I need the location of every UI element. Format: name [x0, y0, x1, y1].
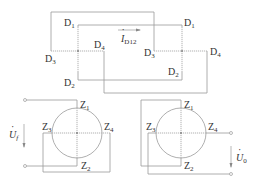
node-dot	[77, 50, 79, 52]
phasor-dot: ·	[122, 24, 125, 35]
voltage-arrow-input	[23, 124, 26, 148]
output-terminal-bottom	[230, 173, 233, 176]
wire-d1-d1	[78, 25, 182, 27]
bottom-left-element	[24, 99, 111, 173]
input-terminal-bottom	[24, 165, 27, 168]
wire-input-bottom	[26, 158, 77, 166]
label-z4-left: Z4	[104, 121, 114, 134]
label-d2-left: D2	[64, 77, 75, 90]
label-z3-left: Z3	[42, 121, 52, 134]
label-d1-right: D1	[184, 17, 195, 30]
label-d4-left: D4	[94, 39, 105, 52]
output-terminal-top	[230, 132, 233, 135]
label-z4-right: Z4	[208, 121, 218, 134]
label-z2-left: Z2	[81, 160, 91, 173]
label-d2-right: D2	[168, 66, 179, 79]
wire-input-top	[26, 100, 77, 108]
label-z3-right: Z3	[146, 121, 156, 134]
arrow-down-icon	[23, 143, 26, 148]
wire-d4-d4	[104, 51, 207, 93]
phasor-dot: ·	[238, 144, 241, 155]
label-z1-right: Z1	[184, 99, 194, 112]
label-d4-right: D4	[210, 46, 221, 59]
node-dot	[76, 132, 78, 134]
label-d3-left: D3	[45, 53, 56, 66]
node-dot	[180, 132, 182, 134]
arrow-down-icon	[230, 163, 233, 168]
top-right-node	[154, 27, 207, 72]
label-d3-right: D3	[144, 47, 155, 60]
wire-d2-d2	[78, 72, 182, 80]
circuit-diagram: D1 D2 D3 D4 D1 D2 D3 D4 ID12 · Z1 Z2 Z3 …	[0, 0, 254, 188]
phasor-dot: ·	[11, 121, 14, 132]
label-z2-right: Z2	[184, 160, 194, 173]
label-z1-left: Z1	[80, 99, 90, 112]
arrow-head-icon	[136, 29, 141, 32]
node-dot	[181, 50, 183, 52]
voltage-arrow-output	[230, 146, 233, 168]
input-terminal-top	[24, 99, 27, 102]
label-d1-left: D1	[64, 17, 75, 30]
